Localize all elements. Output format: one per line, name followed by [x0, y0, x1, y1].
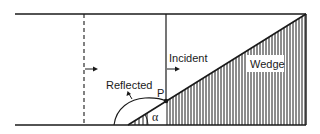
angle-alpha-label: α — [152, 110, 159, 124]
reflected-label: Reflected — [106, 79, 152, 91]
incident-label: Incident — [169, 52, 208, 64]
wedge-label: Wedge — [250, 58, 285, 70]
point-p-marker — [164, 99, 169, 104]
incident-arrow-icon — [167, 67, 180, 72]
shock-wedge-diagram: Wedge Incident Reflected P α — [0, 0, 320, 134]
initial-shock-arrow-icon — [85, 67, 98, 72]
point-p-label: P — [157, 87, 164, 99]
reflected-arrow-icon — [127, 91, 133, 99]
